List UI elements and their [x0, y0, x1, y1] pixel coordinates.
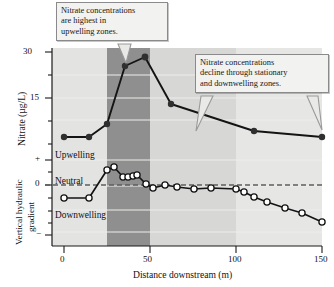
- callout-decline-zones: Nitrate concentrations decline through s…: [195, 54, 329, 93]
- highlight-band-upwelling: [107, 48, 150, 246]
- nitrate-hydraulic-gradient-figure: 30 15 + 0 − 0 50 100 150 Distance downst…: [0, 0, 334, 287]
- x-axis-title: Distance downstream (m): [133, 269, 232, 280]
- top-y-axis-title: Nitrate (µg/L): [16, 92, 27, 146]
- x-ticks: [64, 246, 322, 253]
- x-tick-0: 0: [60, 254, 65, 264]
- zone-label-upwelling: Upwelling: [55, 150, 95, 160]
- zone-label-neutral: Neutral: [55, 176, 83, 186]
- bottom-y-tick-plus: +: [35, 153, 40, 163]
- x-tick-50: 50: [143, 254, 152, 264]
- x-tick-100: 100: [228, 254, 242, 264]
- top-y-tick-15: 15: [30, 92, 39, 102]
- top-y-tick-30: 30: [23, 46, 32, 56]
- bottom-y-axis-title-line2: gradient: [26, 202, 36, 232]
- x-tick-150: 150: [314, 254, 328, 264]
- chart-svg: [0, 0, 334, 287]
- bottom-y-ticks: [45, 160, 52, 235]
- bottom-y-tick-zero: 0: [35, 178, 40, 188]
- top-y-ticks: [45, 52, 52, 144]
- callout-upwelling-zones: Nitrate concentrations are highest in up…: [56, 2, 168, 41]
- bottom-y-tick-minus: −: [36, 228, 41, 238]
- bottom-y-axis-title-line1: Vertical hydraulic: [14, 179, 24, 245]
- zone-label-downwelling: Downwelling: [55, 210, 106, 220]
